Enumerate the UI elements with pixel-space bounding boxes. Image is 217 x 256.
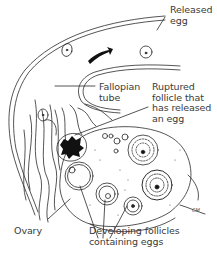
- label-released-egg: Released egg: [170, 5, 212, 26]
- ruptured-follicle: [60, 136, 84, 159]
- follicle-mature-2: [142, 170, 172, 200]
- label-fallopian-tube: Fallopian tube: [99, 82, 140, 103]
- anatomy-illustration: CM: [0, 0, 217, 256]
- follicle-1: [65, 162, 93, 190]
- ovulation-diagram: CM Released egg Fallopian tube Ruptured …: [0, 0, 217, 256]
- follicle-mature-1: [128, 135, 158, 165]
- label-ruptured-follicle: Ruptured follicle that has released an e…: [152, 82, 211, 124]
- signature: CM: [192, 207, 200, 213]
- label-developing-follicles: Developing follicles containing eggs: [89, 226, 180, 247]
- arrow-icon: [88, 47, 113, 64]
- label-ovary: Ovary: [14, 226, 42, 237]
